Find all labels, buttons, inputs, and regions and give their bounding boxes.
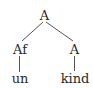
root-node-label: A xyxy=(39,8,50,23)
edge-root-to-left xyxy=(22,22,43,41)
left-node-label: Af xyxy=(12,42,28,57)
left-leaf-label: un xyxy=(12,71,29,86)
tree-diagram: A Af A un kind xyxy=(0,0,93,88)
right-node-label: A xyxy=(69,42,80,57)
right-leaf-label: kind xyxy=(61,71,90,86)
edge-root-to-right xyxy=(46,22,73,41)
